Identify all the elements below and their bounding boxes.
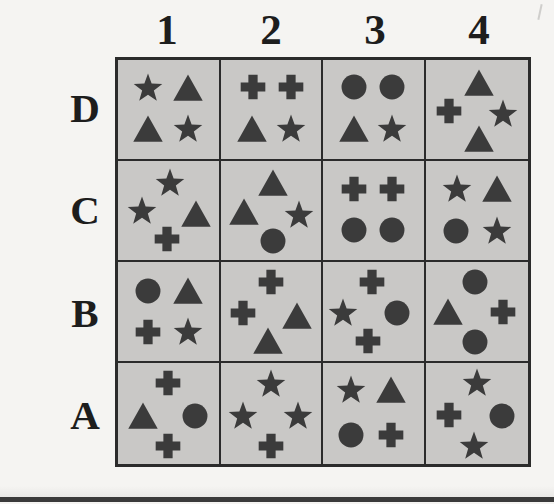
grid-cell-d2 xyxy=(221,60,324,161)
circle-icon xyxy=(340,72,369,101)
triangle-icon xyxy=(132,113,164,145)
star-icon xyxy=(173,114,203,144)
cross-icon xyxy=(257,432,285,460)
star-icon xyxy=(284,200,314,230)
star-icon xyxy=(133,73,163,103)
page-edge-gradient xyxy=(0,486,554,497)
star-icon xyxy=(173,317,203,347)
star-icon xyxy=(276,114,306,144)
cross-icon xyxy=(153,225,181,253)
triangle-icon xyxy=(281,300,313,332)
page-bottom-rule xyxy=(0,497,554,502)
cross-icon xyxy=(377,421,405,449)
star-icon xyxy=(127,196,157,226)
grid-cell-d1 xyxy=(118,60,221,161)
grid-cell-c2 xyxy=(221,161,324,262)
grid-cell-c3 xyxy=(323,161,426,262)
star-icon xyxy=(442,174,472,204)
triangle-icon xyxy=(481,173,513,205)
grid-cell-c4 xyxy=(426,161,529,262)
triangle-icon xyxy=(228,196,260,228)
triangle-icon xyxy=(127,400,159,432)
column-label-2: 2 xyxy=(219,2,323,56)
circle-icon xyxy=(134,276,163,305)
star-icon xyxy=(256,369,286,399)
grid-cell-b4 xyxy=(426,262,529,363)
star-icon xyxy=(228,401,258,431)
cross-icon xyxy=(134,318,162,346)
cross-icon xyxy=(154,369,182,397)
circle-icon xyxy=(258,227,287,256)
star-icon xyxy=(482,216,512,246)
circle-icon xyxy=(460,328,489,357)
grid-cell-a2 xyxy=(221,363,324,464)
row-label-a: A xyxy=(58,365,112,468)
column-label-4: 4 xyxy=(427,2,531,56)
grid-cell-a4 xyxy=(426,363,529,464)
star-icon xyxy=(155,168,185,198)
circle-icon xyxy=(383,299,412,328)
grid-cell-a1 xyxy=(118,363,221,464)
cross-icon xyxy=(489,298,517,326)
symbol-grid xyxy=(115,57,531,467)
triangle-icon xyxy=(257,167,289,199)
row-label-b: B xyxy=(58,262,112,365)
cross-icon xyxy=(257,268,285,296)
triangle-icon xyxy=(463,123,495,155)
grid-cell-a3 xyxy=(323,363,426,464)
scan-artifact-tick xyxy=(537,4,542,20)
cross-icon xyxy=(229,299,257,327)
cross-icon xyxy=(154,432,182,460)
circle-icon xyxy=(460,267,489,296)
circle-icon xyxy=(378,72,407,101)
circle-icon xyxy=(340,216,369,245)
grid-cell-b3 xyxy=(323,262,426,363)
star-icon xyxy=(336,375,366,405)
grid-cell-d4 xyxy=(426,60,529,161)
triangle-icon xyxy=(180,198,212,230)
star-icon xyxy=(328,298,358,328)
star-icon xyxy=(283,401,313,431)
grid-cell-b2 xyxy=(221,262,324,363)
triangle-icon xyxy=(172,275,204,307)
column-label-row: 1 2 3 4 xyxy=(115,2,531,56)
cross-icon xyxy=(239,73,267,101)
cross-icon xyxy=(340,175,368,203)
triangle-icon xyxy=(338,113,370,145)
circle-icon xyxy=(181,401,210,430)
cross-icon xyxy=(277,73,305,101)
circle-icon xyxy=(378,216,407,245)
circle-icon xyxy=(488,401,517,430)
cross-icon xyxy=(435,401,463,429)
grid-cell-b1 xyxy=(118,262,221,363)
row-label-column: D C B A xyxy=(58,57,112,467)
cross-icon xyxy=(435,97,463,125)
triangle-icon xyxy=(375,374,407,406)
column-label-1: 1 xyxy=(115,2,219,56)
star-icon xyxy=(462,368,492,398)
cross-icon xyxy=(354,327,382,355)
row-label-c: C xyxy=(58,160,112,263)
triangle-icon xyxy=(172,72,204,104)
triangle-icon xyxy=(463,67,495,99)
figure-page: 1 2 3 4 D C B A xyxy=(0,0,554,504)
cross-icon xyxy=(378,175,406,203)
grid-cell-d3 xyxy=(323,60,426,161)
circle-icon xyxy=(337,420,366,449)
triangle-icon xyxy=(432,296,464,328)
grid-cell-c1 xyxy=(118,161,221,262)
column-label-3: 3 xyxy=(323,2,427,56)
row-label-d: D xyxy=(58,57,112,160)
circle-icon xyxy=(442,217,471,246)
star-icon xyxy=(377,114,407,144)
triangle-icon xyxy=(252,325,284,357)
cross-icon xyxy=(358,268,386,296)
star-icon xyxy=(459,431,489,461)
triangle-icon xyxy=(236,113,268,145)
